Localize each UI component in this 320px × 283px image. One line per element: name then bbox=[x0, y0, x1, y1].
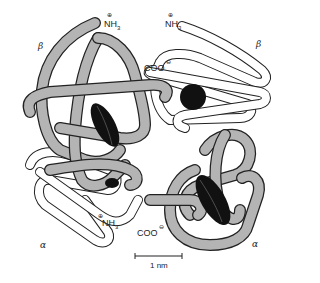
nh3-top-right: ⊕ NH3 bbox=[165, 20, 181, 31]
beta-chain-white bbox=[149, 26, 266, 128]
coo-bottom: COO ⊖ bbox=[137, 229, 158, 238]
nh3-top-left: ⊕ NH3 bbox=[104, 20, 120, 31]
heme-alpha-left bbox=[105, 178, 119, 188]
label-alpha-bottom-left: α bbox=[40, 241, 46, 250]
label-alpha-bottom-right: α bbox=[252, 240, 258, 249]
positive-charge-icon: ⊕ bbox=[168, 12, 173, 18]
positive-charge-icon: ⊕ bbox=[107, 12, 112, 18]
label-beta-top-left: β bbox=[38, 42, 43, 51]
coo-top: COO ⊖ bbox=[144, 64, 165, 73]
scale-bar-label: 1 nm bbox=[150, 262, 168, 270]
negative-charge-icon: ⊖ bbox=[166, 59, 171, 65]
nh3-bottom-left: ⊕ NH3 bbox=[102, 219, 118, 230]
label-beta-top-right: β bbox=[256, 40, 261, 49]
scale-bar bbox=[135, 253, 182, 259]
positive-charge-icon: ⊕ bbox=[98, 213, 103, 219]
negative-charge-icon: ⊖ bbox=[159, 224, 164, 230]
